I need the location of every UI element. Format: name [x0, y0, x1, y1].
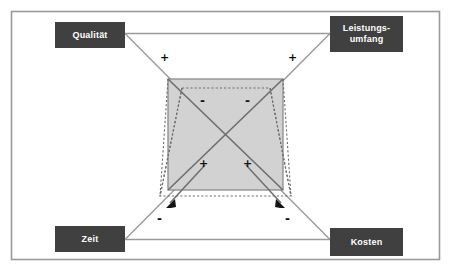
sign-plus-inner-left: +: [199, 158, 208, 169]
corner-label-leistungsumfang[interactable]: Leistungs- umfang: [330, 16, 403, 52]
sign-plus-inner-right: +: [243, 158, 252, 169]
diagram-canvas: Qualität Leistungs- umfang Zeit Kosten +…: [0, 0, 451, 272]
sign-minus-outer-left: -: [157, 213, 162, 225]
corner-label-leistungsumfang-line1: Leistungs-: [343, 23, 391, 33]
corner-label-kosten[interactable]: Kosten: [330, 228, 403, 256]
sign-minus-inner-left: -: [200, 95, 205, 107]
corner-label-qualitaet-text: Qualität: [72, 30, 107, 41]
sign-minus-inner-right: -: [245, 95, 250, 107]
corner-label-qualitaet[interactable]: Qualität: [55, 22, 125, 48]
sign-plus-top-right: +: [288, 52, 297, 63]
sign-plus-top-left: +: [160, 52, 169, 63]
corner-label-leistungsumfang-text: Leistungs- umfang: [343, 23, 391, 45]
corner-label-zeit-text: Zeit: [82, 234, 99, 245]
corner-label-leistungsumfang-line2: umfang: [350, 34, 384, 44]
corner-label-kosten-text: Kosten: [351, 237, 383, 248]
corner-label-zeit[interactable]: Zeit: [55, 226, 125, 252]
sign-minus-outer-right: -: [285, 213, 290, 225]
